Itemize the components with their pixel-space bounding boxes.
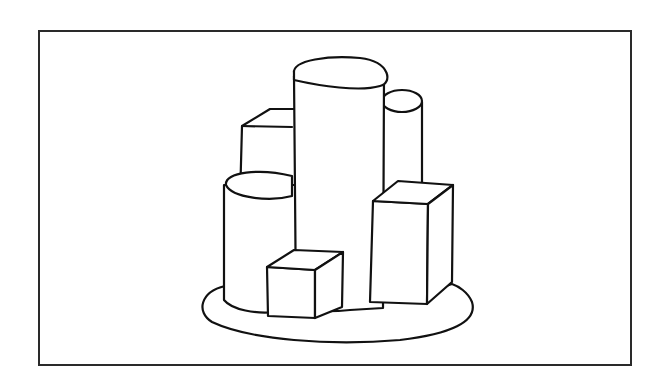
right-tall-box bbox=[370, 181, 453, 304]
figure-canvas bbox=[0, 0, 662, 391]
block-model-drawing bbox=[0, 0, 662, 391]
front-small-cube bbox=[267, 250, 343, 318]
